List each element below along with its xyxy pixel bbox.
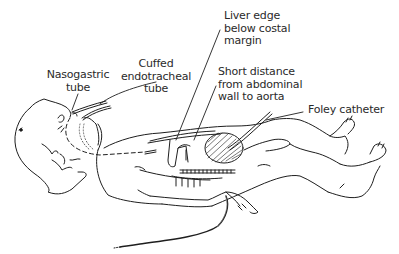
- label-short-distance-aorta: Short distance from abdominal wall to ao…: [218, 66, 302, 104]
- label-foley-catheter: Foley catheter: [308, 104, 384, 117]
- iv-line: [114, 196, 228, 248]
- legs-outline: [212, 116, 386, 206]
- label-line: tube: [46, 82, 110, 95]
- medical-illustration: Nasogastric tube Cuffed endotracheal tub…: [0, 0, 399, 254]
- infant-line-drawing: [0, 0, 399, 254]
- label-cuffed-endotracheal-tube: Cuffed endotracheal tube: [120, 58, 192, 96]
- foley-catheter: [228, 112, 290, 151]
- label-nasogastric-tube: Nasogastric tube: [46, 69, 110, 94]
- label-line: Short distance: [218, 66, 302, 79]
- endotracheal-tube: [79, 106, 111, 150]
- label-line: Foley catheter: [308, 104, 384, 117]
- label-line: tube: [120, 83, 192, 96]
- label-line: wall to aorta: [218, 91, 302, 104]
- abdominal-organs: [168, 133, 243, 187]
- label-line: margin: [224, 35, 290, 48]
- label-liver-edge: Liver edge below costal margin: [224, 10, 290, 48]
- torso-outline: [97, 120, 272, 207]
- label-line: Cuffed: [120, 58, 192, 71]
- label-line: Nasogastric: [46, 69, 110, 82]
- label-line: Liver edge: [224, 10, 290, 23]
